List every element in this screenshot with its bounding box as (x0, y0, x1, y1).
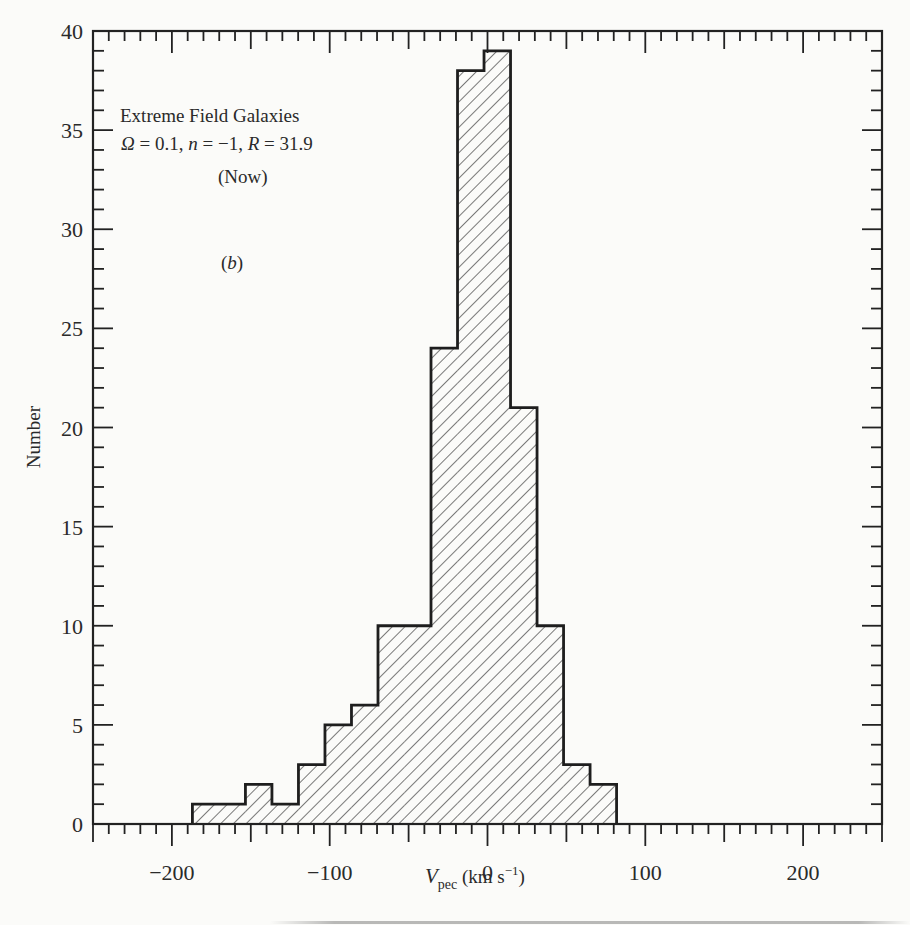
histogram-bar (219, 804, 246, 824)
x-tick-label: 100 (629, 860, 662, 885)
histogram-bar (511, 408, 538, 824)
r-symbol: R (247, 133, 260, 154)
histogram-bar (325, 725, 352, 824)
histogram-bar (431, 348, 458, 824)
y-tick-label: 0 (72, 812, 83, 837)
x-axis-label-subscript: pec (438, 877, 457, 892)
annotation-parameters: Ω = 0.1, n = −1, R = 31.9 (121, 133, 313, 154)
histogram-bar (378, 626, 405, 824)
histogram-bar (245, 784, 272, 824)
y-axis-label: Number (23, 405, 44, 468)
omega-value: = 0.1, (135, 133, 188, 154)
x-tick-label: 200 (787, 860, 820, 885)
annotation-title: Extreme Field Galaxies (120, 105, 299, 126)
y-tick-label: 10 (61, 614, 83, 639)
panel-label-letter: b (227, 252, 237, 273)
y-axis-tick-labels: 0510152025303540 (61, 19, 83, 837)
y-tick-label: 25 (61, 316, 83, 341)
x-tick-label: −100 (307, 860, 352, 885)
x-axis-label-units: (km s (457, 866, 505, 888)
x-axis-label-close: ) (519, 866, 525, 888)
y-tick-label: 40 (61, 19, 83, 44)
r-value: = 31.9 (259, 133, 312, 154)
panel-label: (b) (221, 252, 243, 274)
y-tick-label: 20 (61, 416, 83, 441)
n-symbol: n (188, 133, 198, 154)
omega-symbol: Ω (121, 133, 135, 154)
y-tick-label: 30 (61, 217, 83, 242)
y-tick-label: 15 (61, 515, 83, 540)
annotation-epoch: (Now) (218, 166, 268, 188)
y-tick-label: 35 (61, 118, 83, 143)
histogram-bar (458, 71, 485, 824)
histogram-bar (484, 51, 511, 824)
x-axis-label: Vpec (km s−1) (425, 863, 525, 892)
x-tick-label: −200 (149, 860, 194, 885)
histogram-bar (564, 765, 591, 824)
clipped-caption-line (270, 912, 910, 925)
histogram-bar (537, 626, 564, 824)
n-value: = −1, (198, 133, 248, 154)
histogram-bar (298, 765, 325, 824)
y-tick-label: 5 (72, 713, 83, 738)
histogram-bar (192, 804, 219, 824)
histogram-bar (404, 626, 431, 824)
x-axis-label-superscript: −1 (505, 863, 519, 878)
panel-label-close: ) (237, 252, 243, 274)
histogram-bar (351, 705, 378, 824)
histogram-bar (590, 784, 617, 824)
histogram-bar (272, 804, 299, 824)
